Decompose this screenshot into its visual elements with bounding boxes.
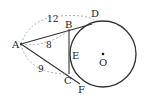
point-o-dot [102, 53, 105, 56]
label-e: E [72, 50, 79, 61]
label-d: D [91, 8, 99, 19]
label-b: B [65, 19, 72, 30]
point-a-dot [20, 43, 22, 45]
geometry-diagram: A B D E O C F 12 8 9 [0, 0, 148, 104]
label-f: F [78, 84, 85, 95]
label-c: C [64, 75, 72, 86]
measure-ac: 9 [38, 64, 44, 74]
label-a: A [11, 39, 20, 50]
label-o: O [99, 57, 107, 68]
measure-ad: 12 [47, 14, 58, 24]
measure-ab: 8 [46, 40, 52, 50]
